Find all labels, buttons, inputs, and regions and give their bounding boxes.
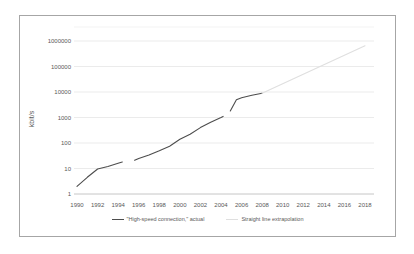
x-tick-label: 1992 [91, 202, 105, 208]
x-tick-label: 1994 [111, 202, 125, 208]
plot-area: 1101001000100001000001000000199019921994… [20, 16, 395, 236]
chart-frame: 1101001000100001000001000000199019921994… [19, 15, 396, 237]
series-line-1 [262, 46, 365, 93]
x-tick-label: 2000 [173, 202, 187, 208]
x-tick-label: 2014 [317, 202, 331, 208]
x-tick-label: 2016 [338, 202, 352, 208]
legend-label: Straight line extrapolation [241, 216, 303, 222]
series-line-0 [135, 116, 224, 160]
legend-label: "High-speed connection," actual [127, 216, 205, 222]
y-tick-label: 1000 [58, 115, 72, 121]
x-tick-label: 2002 [194, 202, 208, 208]
y-axis-title: kbit/s [22, 109, 42, 129]
x-tick-label: 1996 [132, 202, 146, 208]
legend-item: Straight line extrapolation [226, 216, 303, 222]
legend-line-swatch [226, 219, 238, 220]
series-line-0 [230, 93, 262, 111]
y-tick-label: 10000 [54, 89, 71, 95]
y-tick-label: 1000000 [48, 38, 72, 44]
y-tick-label: 100 [61, 140, 72, 146]
x-tick-label: 1998 [153, 202, 167, 208]
x-tick-label: 1990 [70, 202, 84, 208]
x-tick-label: 2006 [235, 202, 249, 208]
legend: "High-speed connection," actualStraight … [20, 213, 395, 225]
y-tick-label: 10 [64, 166, 71, 172]
y-tick-label: 1 [68, 191, 72, 197]
chart-page: 1101001000100001000001000000199019921994… [0, 0, 414, 254]
legend-item: "High-speed connection," actual [112, 216, 205, 222]
legend-line-swatch [112, 219, 124, 220]
x-tick-label: 2012 [297, 202, 311, 208]
x-tick-label: 2018 [358, 202, 372, 208]
x-tick-label: 2004 [214, 202, 228, 208]
series-line-0 [77, 162, 122, 186]
x-tick-label: 2010 [276, 202, 290, 208]
y-tick-label: 100000 [51, 64, 72, 70]
x-tick-label: 2008 [255, 202, 269, 208]
